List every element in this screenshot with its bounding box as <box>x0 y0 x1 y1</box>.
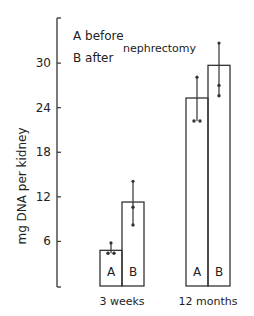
bar <box>208 65 230 286</box>
data-point <box>198 119 201 122</box>
x-tick-label: 12 months <box>179 295 238 308</box>
data-point <box>106 252 109 255</box>
bar-label: A <box>107 265 116 279</box>
data-point <box>131 223 134 226</box>
chart: 612182430 ABAB A before B after nephrect… <box>0 0 254 316</box>
y-tick-label: 30 <box>36 56 51 70</box>
legend: A before B after nephrectomy <box>73 29 197 65</box>
y-tick-label: 6 <box>43 234 51 248</box>
y-tick-label: 24 <box>36 101 51 115</box>
bars: ABAB <box>100 41 230 286</box>
bar-label: A <box>193 265 202 279</box>
bar-label: B <box>129 265 137 279</box>
y-tick-label: 18 <box>36 145 51 159</box>
data-point <box>192 119 195 122</box>
legend-shared: nephrectomy <box>123 42 197 55</box>
x-tick-label: 3 weeks <box>99 295 144 308</box>
legend-a: A before <box>73 29 124 43</box>
legend-b: B after <box>73 51 114 65</box>
data-point <box>217 94 220 97</box>
data-point <box>112 252 115 255</box>
x-axis-labels: 3 weeks12 months <box>99 295 237 308</box>
data-point <box>131 206 134 209</box>
bar <box>186 98 208 286</box>
y-tick-label: 12 <box>36 190 51 204</box>
y-axis-label: mg DNA per kidney <box>15 127 29 244</box>
y-axis: 612182430 <box>36 18 61 287</box>
data-point <box>217 84 220 87</box>
bar-label: B <box>215 265 223 279</box>
